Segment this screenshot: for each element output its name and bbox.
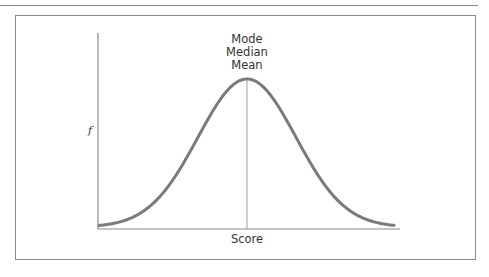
center-stat-labels: Mode Median Mean [217, 33, 277, 72]
x-axis-label: Score [217, 233, 277, 246]
y-axis-label: f [85, 124, 95, 137]
mean-label: Mean [217, 59, 277, 72]
